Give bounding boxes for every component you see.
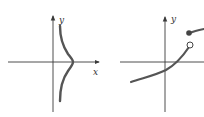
right-y-label: y xyxy=(170,14,177,24)
left-graph: y x xyxy=(8,15,99,112)
left-curve xyxy=(60,26,73,101)
graphs-figure: y x y xyxy=(0,0,204,117)
left-x-label: x xyxy=(93,67,98,77)
right-upper-branch xyxy=(190,29,204,33)
filled-dot-endpoint xyxy=(186,30,192,36)
right-graph: y xyxy=(120,14,204,112)
right-lower-branch xyxy=(131,47,189,82)
left-y-label: y xyxy=(58,15,65,25)
open-circle-endpoint xyxy=(187,42,193,48)
